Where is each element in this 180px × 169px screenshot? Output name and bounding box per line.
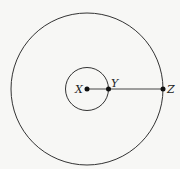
point-z — [161, 87, 166, 92]
concentric-circles-diagram: X Y Z — [0, 0, 180, 169]
label-z: Z — [166, 83, 175, 96]
label-x: X — [74, 83, 84, 96]
point-x — [85, 87, 90, 92]
label-y: Y — [111, 77, 120, 90]
